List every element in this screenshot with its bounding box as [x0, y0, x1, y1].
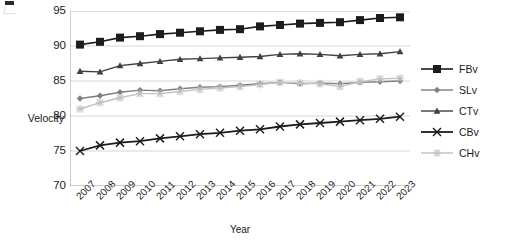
- data-point-cross: [176, 88, 184, 96]
- data-point-square: [376, 14, 384, 22]
- data-point-diamond: [434, 86, 440, 92]
- data-point-square: [196, 27, 204, 35]
- legend-label: CBv: [459, 126, 479, 138]
- cropped-label-artifact: [3, 6, 17, 14]
- data-point-cross: [136, 90, 144, 98]
- legend-item-SLv[interactable]: SLv: [420, 79, 525, 100]
- plot-svg: [70, 11, 410, 186]
- data-point-square: [316, 19, 324, 27]
- legend-marker-x-icon: [420, 124, 454, 140]
- data-point-cross: [216, 84, 224, 92]
- data-point-cross: [256, 81, 264, 89]
- data-point-cross: [276, 78, 284, 86]
- data-point-cross: [433, 149, 441, 157]
- data-point-cross: [316, 80, 324, 88]
- data-point-cross: [236, 83, 244, 91]
- legend-label: CTv: [459, 105, 478, 117]
- data-point-cross: [376, 75, 384, 83]
- data-point-square: [96, 38, 104, 46]
- data-point-cross: [116, 94, 124, 102]
- data-point-square: [296, 20, 304, 28]
- chart-container: Velocity Year 707580859095 2007200820092…: [0, 0, 531, 240]
- y-tick-label: 90: [36, 39, 66, 51]
- data-point-square: [396, 13, 404, 21]
- legend-marker-triangle-icon: [420, 103, 454, 119]
- data-point-cross: [96, 99, 104, 107]
- legend-item-CTv[interactable]: CTv: [420, 100, 525, 121]
- legend-label: SLv: [459, 84, 477, 96]
- data-point-diamond: [97, 93, 103, 99]
- y-tick-label: 75: [36, 144, 66, 156]
- legend-marker-square-icon: [420, 61, 454, 77]
- y-tick-label: 70: [36, 179, 66, 191]
- data-point-diamond: [77, 95, 83, 101]
- data-point-cross: [336, 83, 344, 91]
- legend-item-CHv[interactable]: CHv: [420, 142, 525, 163]
- data-point-square: [216, 26, 224, 34]
- legend-marker-cross-icon: [420, 145, 454, 161]
- data-point-square: [136, 32, 144, 40]
- data-point-square: [336, 18, 344, 26]
- x-axis-ticks: 2007200820092010201120122013201420152016…: [0, 194, 531, 240]
- legend-label: CHv: [459, 147, 479, 159]
- data-point-square: [276, 21, 284, 29]
- data-point-cross: [156, 90, 164, 98]
- data-point-cross: [296, 79, 304, 87]
- data-point-cross: [76, 105, 84, 113]
- y-tick-label: 95: [36, 4, 66, 16]
- series-line-CBv: [80, 117, 400, 151]
- plot-area: [70, 11, 410, 186]
- chart-legend: FBvSLvCTvCBvCHv: [420, 58, 525, 163]
- legend-label: FBv: [459, 63, 478, 75]
- data-point-square: [356, 16, 364, 24]
- data-point-cross: [196, 85, 204, 93]
- data-point-square: [176, 29, 184, 37]
- data-point-square: [256, 22, 264, 30]
- legend-item-FBv[interactable]: FBv: [420, 58, 525, 79]
- data-point-square: [236, 25, 244, 33]
- data-point-square: [156, 30, 164, 38]
- y-tick-label: 80: [36, 109, 66, 121]
- legend-marker-diamond-icon: [420, 82, 454, 98]
- data-point-cross: [356, 78, 364, 86]
- legend-item-CBv[interactable]: CBv: [420, 121, 525, 142]
- cropped-artifact-icon: [5, 1, 14, 5]
- y-tick-label: 85: [36, 74, 66, 86]
- data-point-square: [433, 65, 441, 73]
- data-point-square: [116, 34, 124, 42]
- data-point-cross: [396, 74, 404, 82]
- data-point-square: [76, 41, 84, 49]
